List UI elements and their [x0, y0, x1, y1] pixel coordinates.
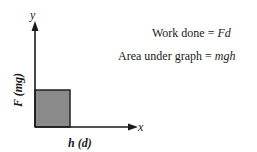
height-symbol: h — [68, 136, 75, 150]
y-axis-arrow-icon — [32, 21, 39, 31]
x-axis-arrow-icon — [128, 124, 138, 131]
area-expr: mgh — [215, 49, 236, 63]
work-done-equation: Work done = Fd — [152, 27, 231, 39]
height-paren: (d) — [78, 136, 92, 150]
x-axis-label: x — [138, 121, 143, 133]
force-symbol: F — [11, 99, 25, 107]
work-done-expr: Fd — [217, 26, 230, 40]
force-paren: (mg) — [11, 73, 25, 96]
horizontal-quantity-label: h (d) — [68, 137, 92, 149]
area-equation: Area under graph = mgh — [118, 50, 235, 62]
y-axis-label: y — [30, 9, 35, 21]
area-label: Area under graph = — [118, 49, 215, 63]
force-distance-graph — [0, 0, 257, 152]
vertical-quantity-label: F (mg) — [12, 73, 24, 107]
shaded-area — [35, 90, 70, 127]
work-done-label: Work done = — [152, 26, 217, 40]
